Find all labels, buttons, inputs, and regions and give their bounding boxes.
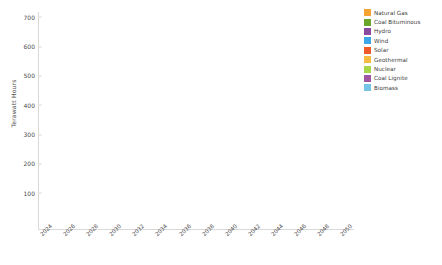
legend-label: Coal Bituminous [374, 19, 420, 25]
legend-item-natural-gas[interactable]: Natural Gas [364, 8, 442, 17]
legend-swatch-icon [364, 66, 371, 73]
legend-item-geothermal[interactable]: Geothermal [364, 55, 442, 64]
legend-label: Coal Lignite [374, 75, 408, 81]
legend-swatch-icon [364, 84, 371, 91]
legend-label: Solar [374, 47, 389, 53]
x-axis-label-2028: 2028 [87, 232, 97, 265]
x-axis-label-2038: 2038 [203, 232, 213, 265]
x-axis-label-2042: 2042 [249, 232, 259, 265]
x-axis-label-2030: 2030 [110, 232, 120, 265]
x-axis-label-2035 [168, 232, 178, 265]
x-axis-label-2039 [214, 232, 224, 265]
legend-swatch-icon [364, 37, 371, 44]
x-axis-label-2044: 2044 [272, 232, 282, 265]
legend-item-hydro[interactable]: Hydro [364, 27, 442, 36]
x-axis-label-2048: 2048 [318, 232, 328, 265]
y-axis-tick-100: 100 [24, 189, 39, 196]
x-axis-label-2040: 2040 [226, 232, 236, 265]
x-axis-label-2033 [145, 232, 155, 265]
legend-swatch-icon [364, 47, 371, 54]
x-axis-label-2047 [307, 232, 317, 265]
legend-item-coal-lignite[interactable]: Coal Lignite [364, 74, 442, 83]
stacked-bar-chart: Terawatt Hours 100200300400500600700 202… [0, 0, 442, 265]
y-axis-tick-600: 600 [24, 43, 39, 50]
legend-swatch-icon [364, 75, 371, 82]
legend-item-biomass[interactable]: Biomass [364, 83, 442, 92]
legend-swatch-icon [364, 19, 371, 26]
x-axis-label-2045 [284, 232, 294, 265]
legend-label: Hydro [374, 28, 391, 34]
x-axis-label-2032: 2032 [133, 232, 143, 265]
y-axis-tick-400: 400 [24, 101, 39, 108]
x-axis-label-2034: 2034 [157, 232, 167, 265]
x-axis-label-2050: 2050 [342, 232, 352, 265]
x-axis-label-2026: 2026 [64, 232, 74, 265]
legend-label: Wind [374, 38, 388, 44]
legend-swatch-icon [364, 28, 371, 35]
x-axis-label-2037 [191, 232, 201, 265]
legend-item-solar[interactable]: Solar [364, 46, 442, 55]
legend-label: Natural Gas [374, 10, 408, 16]
x-axis-labels: 2024202620282030203220342036203820402042… [38, 232, 354, 265]
x-axis-label-2041 [237, 232, 247, 265]
x-axis-label-2024: 2024 [41, 232, 51, 265]
x-axis-label-2049 [330, 232, 340, 265]
y-axis-tick-300: 300 [24, 131, 39, 138]
bars-container [39, 12, 354, 229]
legend-label: Biomass [374, 85, 398, 91]
legend-swatch-icon [364, 56, 371, 63]
legend-item-wind[interactable]: Wind [364, 36, 442, 45]
y-axis-tick-700: 700 [24, 13, 39, 20]
x-axis-label-2046: 2046 [295, 232, 305, 265]
plot-area: 100200300400500600700 [38, 12, 354, 230]
x-axis-label-2027 [76, 232, 86, 265]
x-axis-label-2029 [99, 232, 109, 265]
y-axis-tick-500: 500 [24, 72, 39, 79]
legend-label: Nuclear [374, 66, 396, 72]
x-axis-label-2036: 2036 [180, 232, 190, 265]
x-axis-label-2031 [122, 232, 132, 265]
legend-item-coal-bituminous[interactable]: Coal Bituminous [364, 17, 442, 26]
legend-label: Geothermal [374, 57, 408, 63]
y-axis-tick-200: 200 [24, 160, 39, 167]
x-axis-label-2043 [261, 232, 271, 265]
chart-legend: Natural GasCoal BituminousHydroWindSolar… [364, 8, 442, 93]
legend-swatch-icon [364, 9, 371, 16]
legend-item-nuclear[interactable]: Nuclear [364, 64, 442, 73]
y-axis-title: Terawatt Hours [10, 64, 17, 144]
x-axis-label-2025 [52, 232, 62, 265]
